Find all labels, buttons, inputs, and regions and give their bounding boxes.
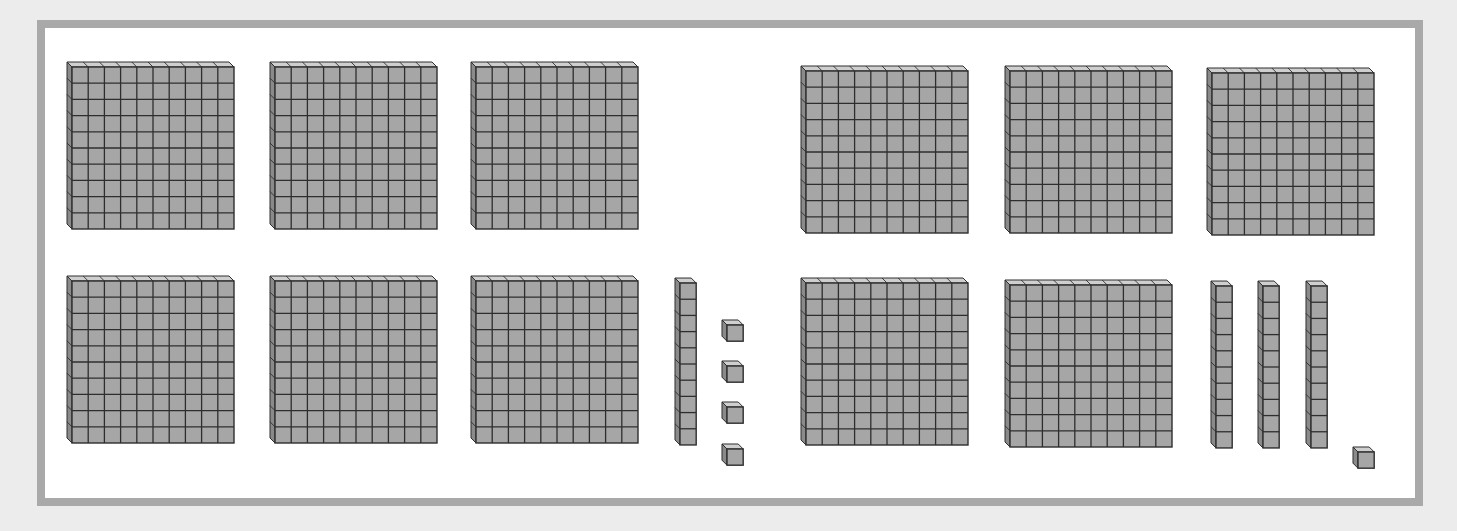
hundreds-flat xyxy=(800,277,969,446)
ones-cube xyxy=(721,319,744,342)
hundreds-flat xyxy=(269,275,438,444)
tens-rod xyxy=(674,277,697,446)
tens-rod xyxy=(1305,280,1328,449)
tens-rod xyxy=(1257,280,1280,449)
hundreds-flat xyxy=(800,65,969,234)
ones-cube xyxy=(1352,446,1375,469)
ones-cube xyxy=(721,360,744,383)
ones-cube xyxy=(721,401,744,424)
hundreds-flat xyxy=(66,61,235,230)
hundreds-flat xyxy=(1206,67,1375,236)
hundreds-flat xyxy=(66,275,235,444)
hundreds-flat xyxy=(269,61,438,230)
tens-rod xyxy=(1210,280,1233,449)
ones-cube xyxy=(721,443,744,466)
hundreds-flat xyxy=(1004,279,1173,448)
hundreds-flat xyxy=(470,61,639,230)
hundreds-flat xyxy=(470,275,639,444)
hundreds-flat xyxy=(1004,65,1173,234)
